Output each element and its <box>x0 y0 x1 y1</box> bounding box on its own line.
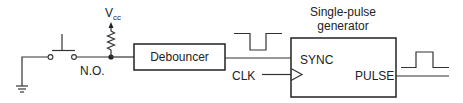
pushbutton-switch-icon <box>48 34 111 59</box>
generator-title-line1: Single-pulse <box>310 5 376 19</box>
generator-title-line2: generator <box>317 19 368 33</box>
single-pulse-generator-block <box>291 38 396 97</box>
circuit-diagram: N.O. Vcc Debouncer CLK Single-pulse gene… <box>0 0 463 103</box>
clk-label: CLK <box>232 69 255 83</box>
debounced-waveform-icon <box>234 34 282 51</box>
vcc-label: Vcc <box>105 6 121 22</box>
debouncer-label: Debouncer <box>150 50 209 64</box>
pullup-resistor-icon <box>108 22 115 60</box>
sync-label: SYNC <box>300 53 334 67</box>
ground-icon <box>16 57 48 92</box>
output-pulse-waveform-icon <box>401 52 449 68</box>
switch-label: N.O. <box>80 64 105 78</box>
pulse-label: PULSE <box>355 69 394 83</box>
